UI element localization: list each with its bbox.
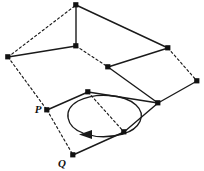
dashed-edge-mid-inner [76,46,108,67]
vertex-v-p [44,107,49,112]
solid-edge-p-center [47,92,88,110]
vertex-v-inner-left [105,64,110,69]
dashed-edge-p-q [47,110,73,155]
figure-container: P Q [0,0,204,171]
figure-diagram: P Q [0,0,204,171]
orientation-loop [68,95,141,139]
label-q: Q [58,157,66,169]
loop-arc [68,95,141,136]
dashed-edge-group [8,5,197,155]
solid-edge-left-mid [8,46,76,57]
vertex-v-q [70,152,75,157]
solid-edge-group [8,5,197,155]
dashed-edge-center-lower [88,92,124,132]
solid-edge-junction-far-right [158,81,197,103]
label-p: P [35,103,42,115]
vertex-v-mid-upper [73,43,78,48]
dashed-edge-right-far [168,48,197,81]
vertex-v-center [85,89,90,94]
vertex-v-left [5,54,10,59]
vertex-group [5,2,199,157]
vertex-v-junction [155,100,160,105]
solid-edge-inner-junction [108,67,158,103]
vertex-v-right-upper [165,45,170,50]
dashed-edge-left-top [8,5,76,57]
vertex-v-lower-right [121,129,126,134]
solid-edge-inner-right-upper [108,48,168,67]
vertex-v-top [73,2,78,7]
solid-edge-top-right-upper [76,5,168,48]
vertex-v-far-right [194,78,199,83]
loop-arrowhead [79,130,92,139]
